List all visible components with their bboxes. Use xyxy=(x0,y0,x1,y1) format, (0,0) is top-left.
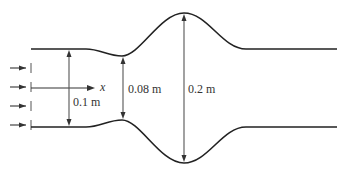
duct-diagram: x 0.1 m 0.08 m 0.2 m xyxy=(0,0,343,173)
flow-arrow-icon xyxy=(10,120,31,130)
arrowhead-up-icon xyxy=(67,50,72,57)
arrowhead-up-icon xyxy=(182,14,187,21)
x-axis-label: x xyxy=(99,80,106,94)
arrowhead-up-icon xyxy=(121,57,126,64)
throat-diameter-dimension: 0.08 m xyxy=(121,57,163,119)
flow-arrow-icon xyxy=(10,101,31,111)
x-axis-arrow-icon xyxy=(87,85,95,91)
flow-arrow-icon xyxy=(10,82,31,92)
throat-diameter-label: 0.08 m xyxy=(128,82,162,96)
arrowhead-down-icon xyxy=(67,119,72,126)
inlet-flow-arrows xyxy=(10,63,31,130)
flow-arrow-icon xyxy=(10,63,31,73)
bulge-diameter-dimension: 0.2 m xyxy=(182,14,217,162)
arrowhead-down-icon xyxy=(121,112,126,119)
bulge-diameter-label: 0.2 m xyxy=(188,82,216,96)
arrowhead-down-icon xyxy=(182,155,187,162)
inlet-diameter-label: 0.1 m xyxy=(73,95,101,109)
